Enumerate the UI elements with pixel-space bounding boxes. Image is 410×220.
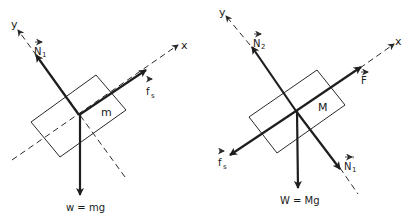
normal-force-n1-arrow [36,55,79,115]
y-axis-label-left: y [11,18,18,31]
y-axis-label-right: y [219,6,226,19]
x-axis-label-right: x [395,35,402,48]
fs-label-right: f s [218,151,227,171]
n2-label: N 2 [253,34,265,51]
block-m-rect [31,75,126,157]
friction-force-fs-arrow [79,70,146,115]
f-label: F [361,72,368,86]
weight-label-right: W = Mg [280,195,320,206]
applied-force-f-arrow [296,67,361,111]
svg-text:2: 2 [261,43,265,51]
mass-label-m: m [101,106,112,119]
diagram-block-M: y x M N 2 F f s N 1 ' W = Mg [218,6,402,206]
svg-text:1: 1 [352,166,356,174]
n1-label: N 1 [34,42,46,59]
mass-label-M: M [318,101,328,114]
svg-text:s: s [223,163,227,171]
svg-text:': ' [352,156,354,165]
svg-text:1: 1 [42,51,46,59]
y-axis-right [226,16,250,45]
weight-label-left: w = mg [66,202,105,213]
svg-text:s: s [151,92,155,100]
diagram-block-m: y x m N 1 f s w = mg [11,18,188,213]
friction-force-fs-arrow-right [230,111,296,155]
normal-force-n2-arrow [252,47,296,111]
weight-arrow-right [297,111,298,188]
svg-text:f: f [218,157,222,168]
svg-text:f: f [146,86,150,97]
svg-text:N: N [34,46,41,57]
fs-label-left: f s [146,79,155,100]
svg-text:N: N [253,38,260,49]
x-axis-right [360,44,394,68]
n1-prime-label: N 1 ' [344,156,356,174]
free-body-diagrams: y x m N 1 f s w = mg y [0,0,410,220]
svg-text:N: N [344,161,351,172]
reaction-force-n1-prime-arrow [296,111,340,169]
x-axis-label-left: x [181,39,188,52]
x-axis-left [12,45,178,160]
svg-text:F: F [361,75,367,86]
